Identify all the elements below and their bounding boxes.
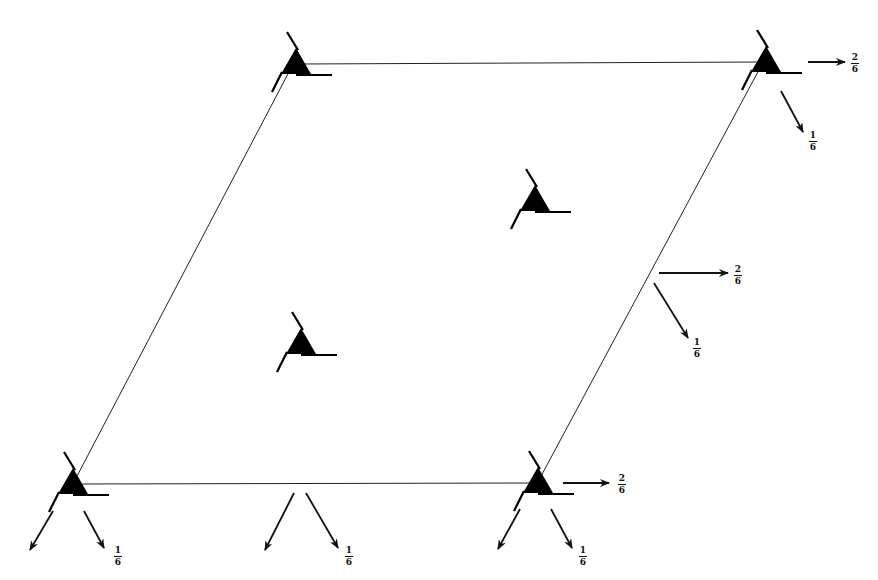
denominator: 6	[617, 486, 627, 495]
numerator: 1	[578, 546, 588, 555]
denominator: 6	[850, 65, 860, 74]
fraction-label: 1 6	[692, 338, 702, 359]
triangle-marker-icon	[277, 312, 337, 372]
numerator: 2	[850, 53, 860, 62]
symmetry-markers	[49, 30, 802, 512]
denominator: 6	[808, 143, 818, 152]
fraction-label: 1 6	[808, 131, 818, 152]
triangle-marker-icon	[49, 452, 109, 512]
numerator: 2	[733, 265, 743, 274]
denominator: 6	[113, 558, 123, 567]
denominator: 6	[344, 558, 354, 567]
fraction-label: 1 6	[578, 546, 588, 567]
cell-edge-top	[300, 62, 763, 64]
arrow-icon	[84, 511, 104, 548]
numerator: 1	[692, 338, 702, 347]
fraction-label: 2 6	[733, 265, 743, 286]
denominator: 6	[578, 558, 588, 567]
arrow-icon	[498, 509, 520, 549]
cell-edge-left	[76, 70, 290, 478]
arrow-icon	[265, 493, 294, 550]
numerator: 2	[617, 474, 627, 483]
fraction-label: 2 6	[850, 53, 860, 74]
denominator: 6	[692, 350, 702, 359]
fraction-label: 2 6	[617, 474, 627, 495]
triangle-marker-icon	[514, 451, 574, 511]
triangle-marker-icon	[742, 30, 802, 90]
arrow-icon	[306, 493, 338, 548]
fraction-label: 1 6	[344, 546, 354, 567]
numerator: 1	[808, 131, 818, 140]
fraction-label: 1 6	[113, 546, 123, 567]
denominator: 6	[733, 277, 743, 286]
triangle-marker-icon	[511, 169, 571, 229]
lattice-diagram	[0, 0, 878, 580]
displacement-vectors	[30, 62, 845, 550]
arrow-icon	[654, 283, 688, 338]
arrow-icon	[551, 509, 572, 548]
numerator: 1	[113, 546, 123, 555]
arrow-icon	[30, 511, 53, 550]
numerator: 1	[344, 546, 354, 555]
arrow-icon	[781, 91, 803, 132]
triangle-marker-icon	[272, 32, 332, 92]
cell-edge-bottom	[80, 483, 530, 484]
